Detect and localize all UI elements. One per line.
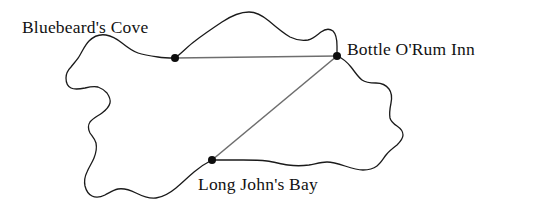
survey-line-inn-to-bay: [212, 56, 337, 160]
landmark-marker-long-johns-bay[interactable]: [208, 156, 216, 164]
survey-line-cove-to-inn: [175, 56, 337, 58]
landmark-marker-bottle-orum-inn[interactable]: [333, 52, 341, 60]
landmark-label-bluebeards-cove: Bluebeard's Cove: [22, 19, 148, 37]
landmark-marker-bluebeards-cove[interactable]: [171, 54, 179, 62]
landmark-label-bottle-orum-inn: Bottle O'Rum Inn: [347, 41, 475, 59]
landmark-label-long-johns-bay: Long John's Bay: [198, 176, 318, 194]
island-map-figure: Bluebeard's Cove Bottle O'Rum Inn Long J…: [0, 0, 538, 219]
